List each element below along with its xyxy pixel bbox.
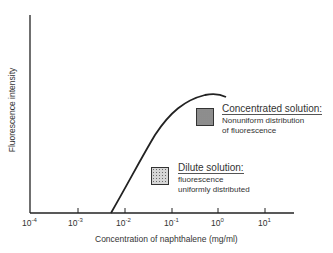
y-axis-label: Fluorescence intensity [7, 68, 17, 153]
chart-plot-area [0, 0, 333, 253]
legend-concentrated-line1: Nonuniform distribution [222, 116, 304, 126]
dense-stipple-swatch [196, 108, 214, 126]
x-tick-label: 10-3 [68, 217, 83, 228]
x-tick-label: 100 [211, 217, 224, 228]
x-axis-ticks [78, 208, 265, 213]
legend-concentrated-title: Concentrated solution: [222, 103, 322, 115]
x-tick-label: 10-2 [116, 217, 131, 228]
x-tick-label: 101 [258, 217, 271, 228]
legend-dilute-line2: uniformly distributed [178, 185, 250, 195]
x-tick-label: 10-4 [22, 217, 37, 228]
legend-dilute-title: Dilute solution: [178, 162, 244, 174]
legend-dilute-line1: fluorescence [178, 175, 223, 185]
sparse-stipple-swatch [151, 167, 169, 185]
x-axis-label: Concentration of naphthalene (mg/ml) [95, 234, 238, 244]
legend-concentrated-line2: of fluorescence [222, 126, 276, 136]
x-tick-label: 10-1 [164, 217, 179, 228]
